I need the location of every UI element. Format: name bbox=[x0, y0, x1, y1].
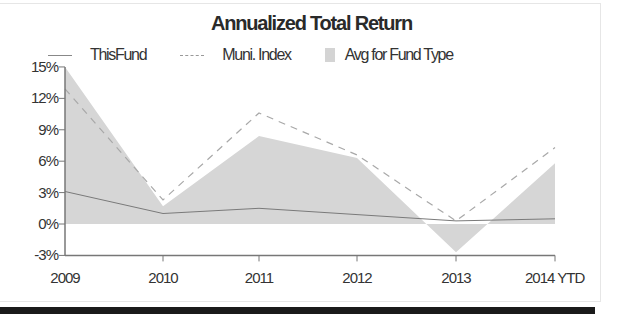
y-tick-label: 0% bbox=[38, 215, 58, 232]
y-tick-label: 3% bbox=[38, 184, 58, 201]
x-tick-label: 2012 bbox=[342, 269, 372, 286]
x-tick-label: 2010 bbox=[148, 269, 178, 286]
x-tick-label: 2009 bbox=[50, 269, 80, 286]
y-tick-label: 12% bbox=[31, 89, 59, 106]
chart-plot-area: 15%12%9%6%3%0%-3%20092010201120122013201… bbox=[0, 0, 623, 314]
avg-fund-type-area bbox=[65, 67, 555, 252]
bottom-dark-bar bbox=[0, 307, 595, 314]
x-tick-label: 2013 bbox=[441, 269, 471, 286]
y-tick-label: 9% bbox=[38, 121, 58, 138]
x-tick-label: 2014 YTD bbox=[525, 269, 585, 286]
y-tick-label: 15% bbox=[31, 58, 59, 75]
y-tick-label: -3% bbox=[34, 246, 58, 263]
y-tick-label: 6% bbox=[38, 152, 58, 169]
x-tick-label: 2011 bbox=[245, 269, 274, 286]
